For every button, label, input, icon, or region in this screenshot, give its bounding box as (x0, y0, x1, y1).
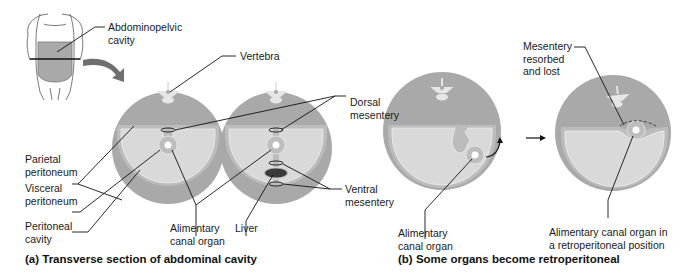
liver-shape (265, 169, 287, 178)
caption-panel-b: (b) Some organs become retroperitoneal (398, 253, 620, 265)
section-disc-3 (383, 72, 503, 190)
label-visceral-peritoneum: Visceral peritoneum (25, 182, 78, 207)
label-peritoneal-cavity: Peritoneal cavity (25, 220, 72, 245)
label-dorsal-mesentery: Dorsal mesentery (350, 96, 399, 121)
label-retroperitoneal-position: Alimentary canal organ in a retroperiton… (549, 226, 667, 251)
section-disc-1 (112, 82, 224, 204)
caption-panel-a: (a) Transverse section of abdominal cavi… (25, 253, 257, 265)
label-mesentery-resorbed: Mesentery resorbed and lost (523, 40, 572, 78)
right-arrow-icon (526, 135, 546, 141)
label-liver: Liver (235, 222, 258, 235)
label-vertebra: Vertebra (240, 50, 280, 63)
label-parietal-peritoneum: Parietal peritoneum (25, 153, 78, 178)
label-abdominopelvic-cavity: Abdominopelvic cavity (108, 21, 182, 46)
body-torso-icon (27, 14, 83, 100)
label-alimentary-canal-organ-a: Alimentary canal organ (170, 222, 225, 247)
label-alimentary-canal-organ-b: Alimentary canal organ (398, 227, 453, 252)
curved-arrow-icon (83, 59, 124, 82)
label-ventral-mesentery: Ventral mesentery (345, 183, 394, 208)
section-disc-4 (555, 75, 671, 191)
